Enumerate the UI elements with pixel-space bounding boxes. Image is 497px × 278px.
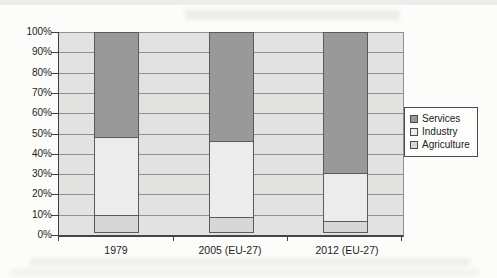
y-tick-mark-100% [51,32,58,33]
x-tick-mark-2 [287,237,288,241]
legend-swatch-agriculture [410,141,418,149]
x-axis-label-1979: 1979 [104,244,127,256]
y-tick-label-30%: 30% [0,168,52,180]
x-tick-mark-1 [173,237,174,241]
y-tick-label-40%: 40% [0,148,52,160]
y-tick-label-0%: 0% [0,229,52,241]
y-tick-mark-10% [51,215,58,216]
bar-segment-agriculture [209,217,254,233]
x-axis-label-2012: 2012 (EU-27) [315,244,378,256]
figure: 0%10%20%30%40%50%60%70%80%90%100% 1979 2… [0,0,497,278]
y-tick-mark-80% [51,73,58,74]
y-tick-mark-20% [51,194,58,195]
y-tick-mark-60% [51,113,58,114]
y-tick-label-80%: 80% [0,67,52,79]
legend-label-agriculture: Agriculture [422,139,470,150]
legend: ServicesIndustryAgriculture [404,107,478,157]
bar-2012-eu-27- [323,32,368,235]
y-tick-mark-0% [51,235,58,236]
bar-segment-services [209,32,254,142]
legend-row-agriculture: Agriculture [410,138,473,151]
legend-row-services: Services [410,112,473,125]
bar-segment-industry [94,137,139,216]
y-tick-mark-30% [51,174,58,175]
plot-area [58,32,404,237]
y-tick-label-60%: 60% [0,107,52,119]
bar-segment-services [94,32,139,138]
legend-swatch-services [410,115,418,123]
y-tick-mark-70% [51,93,58,94]
x-tick-mark-3 [401,237,402,241]
bar-1979 [94,32,139,235]
legend-label-industry: Industry [422,126,458,137]
y-tick-label-50%: 50% [0,128,52,140]
stacked-bar-chart: 0%10%20%30%40%50%60%70%80%90%100% 1979 2… [0,0,497,278]
x-axis-label-2005: 2005 (EU-27) [198,244,261,256]
legend-label-services: Services [422,113,460,124]
y-tick-label-100%: 100% [0,26,52,38]
y-tick-mark-90% [51,52,58,53]
y-tick-mark-40% [51,154,58,155]
y-tick-label-20%: 20% [0,188,52,200]
legend-row-industry: Industry [410,125,473,138]
y-tick-label-70%: 70% [0,87,52,99]
bar-segment-agriculture [323,221,368,233]
bar-segment-industry [209,141,254,218]
bar-segment-agriculture [94,215,139,233]
y-tick-label-10%: 10% [0,209,52,221]
y-tick-label-90%: 90% [0,46,52,58]
y-tick-mark-50% [51,134,58,135]
x-tick-mark-0 [58,237,59,241]
bar-segment-services [323,32,368,174]
bar-segment-industry [323,173,368,222]
bar-2005-eu-27- [209,32,254,235]
legend-swatch-industry [410,128,418,136]
